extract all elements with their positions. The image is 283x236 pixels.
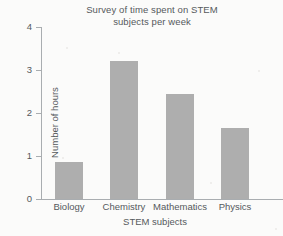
bar-chart: Survey of time spent on STEM subjects pe… — [0, 0, 283, 236]
x-axis-title: STEM subjects — [41, 216, 269, 227]
y-axis-title: Number of hours — [49, 63, 60, 183]
y-axis-tick-label-wrap: 0 — [0, 199, 32, 200]
paper-speckle — [275, 228, 277, 230]
x-axis-tick-label: Chemistry — [103, 201, 146, 212]
x-axis-tick-label: Mathematics — [153, 201, 207, 212]
plot-area: Number of hours — [41, 27, 283, 200]
x-axis-tick-label: Physics — [219, 201, 252, 212]
x-axis-tick-label: Biology — [53, 201, 84, 212]
